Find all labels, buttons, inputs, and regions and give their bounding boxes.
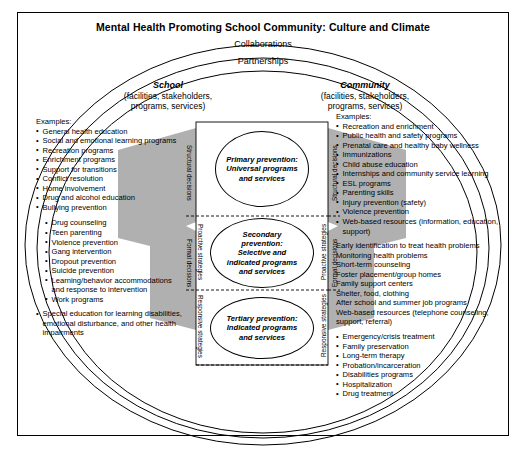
list-item: Probation/incarceration [336, 361, 511, 371]
label-formal-decisions-left: Formal decisions [186, 222, 193, 304]
list-item: Dropout prevention [45, 257, 186, 267]
school-name: School [108, 80, 228, 90]
list-item: Family support centers [336, 279, 511, 289]
community-primary-list: Recreation and enrichmentPublic health a… [336, 122, 511, 237]
label-responsive-strategies-left: Responsive strategies [197, 292, 204, 360]
list-item: Internships and community service learni… [336, 169, 511, 179]
list-item: Immunizations [336, 150, 511, 160]
label-responsive-strategies-right: Responsive strategies [320, 292, 327, 360]
prevention-tiers: Primary prevention: Universal programs a… [196, 122, 328, 365]
label-proactive-strategies-right: Proactive strategies [320, 222, 327, 282]
list-item: Recreation programs [36, 146, 186, 156]
school-primary-list: General health educationSocial and emoti… [36, 127, 186, 213]
tier-primary: Primary prevention: Universal programs a… [196, 122, 328, 216]
school-examples-column: Examples: General health educationSocial… [36, 117, 186, 338]
list-item: Drug counseling [45, 218, 186, 228]
page-title: Mental Health Promoting School Community… [0, 21, 526, 33]
list-item: Violence prevention [45, 238, 186, 248]
tertiary-prevention-ellipse: Tertiary prevention: Indicated programs … [210, 297, 314, 359]
list-item: Long-term therapy [336, 351, 511, 361]
list-item: Social and emotional learning programs [36, 136, 186, 146]
list-item: Web-based resources (telephone counselin… [336, 308, 511, 327]
list-item: Shelter, food, clothing [336, 289, 511, 299]
list-item: Child abuse education [336, 160, 511, 170]
collaborations-label: Collaborations [0, 39, 526, 49]
school-examples-label: Examples: [36, 117, 186, 127]
community-name: Community [300, 80, 430, 90]
list-item: Foster placement/group homes [336, 270, 511, 280]
list-item: Teen parenting [45, 228, 186, 238]
community-examples-label: Examples: [336, 112, 511, 122]
list-item: Conflict resolution [36, 174, 186, 184]
school-heading: School (facilities, stakeholders, progra… [108, 80, 228, 111]
list-item: Public health and safety programs [336, 131, 511, 141]
label-formal-decisions-right: Formal decisions [331, 222, 338, 304]
list-item: Hospitalization [336, 380, 511, 390]
partnerships-label: Partnerships [0, 56, 526, 66]
list-item: ESL programs [336, 179, 511, 189]
list-item: Early identification to treat health pro… [336, 241, 511, 251]
list-item: Suicide prevention [45, 266, 186, 276]
list-item: After school and summer job programs [336, 298, 511, 308]
list-item: Disabilities programs [336, 370, 511, 380]
community-subtitle: (facilities, stakeholders, programs, ser… [321, 91, 409, 111]
community-tertiary-list: Emergency/crisis treatmentFamily preserv… [336, 332, 511, 399]
school-secondary-list: Drug counselingTeen parentingViolence pr… [36, 218, 186, 304]
list-item: Special education for learning disabilit… [36, 309, 186, 338]
list-item: Work programs [45, 295, 186, 305]
list-item: General health education [36, 127, 186, 137]
list-item: Support for transitions [36, 165, 186, 175]
list-item: Parenting skills [336, 188, 511, 198]
list-item: Home involvement [36, 184, 186, 194]
tier-tertiary: Tertiary prevention: Indicated programs … [196, 290, 328, 365]
community-secondary-list: Early identification to treat health pro… [336, 241, 511, 327]
diagram-page: Mental Health Promoting School Community… [0, 0, 526, 452]
list-item: Web-based resources (information, educat… [336, 217, 511, 236]
label-proactive-strategies-left: Proactive strategies [197, 222, 204, 282]
community-heading: Community (facilities, stakeholders, pro… [300, 80, 430, 111]
label-structural-decisions-left: Structural decisions [186, 131, 193, 215]
list-item: Prenatal care and healthy baby wellness [336, 141, 511, 151]
list-item: Violence prevention [336, 207, 511, 217]
list-item: Monitoring health problems [336, 251, 511, 261]
list-item: Gang intervention [45, 247, 186, 257]
list-item: Short-term counseling [336, 260, 511, 270]
list-item: Family preservation [336, 342, 511, 352]
community-examples-column: Examples: Recreation and enrichmentPubli… [336, 112, 511, 399]
list-item: Drug treatment [336, 389, 511, 399]
list-item: Enrichment programs [36, 155, 186, 165]
list-item: Emergency/crisis treatment [336, 332, 511, 342]
primary-prevention-ellipse: Primary prevention: Universal programs a… [215, 131, 309, 207]
school-tertiary-list: Special education for learning disabilit… [36, 309, 186, 338]
tier-secondary: Secondary prevention: Selective and indi… [196, 216, 328, 290]
list-item: Bullying prevention [36, 203, 186, 213]
label-structural-decisions-right: Structural decisions [331, 131, 338, 215]
school-subtitle: (facilities, stakeholders, programs, ser… [124, 91, 212, 111]
list-item: Recreation and enrichment [336, 122, 511, 132]
list-item: Learning/behavior accommodations and res… [45, 276, 186, 295]
list-item: Injury prevention (safety) [336, 198, 511, 208]
list-item: Drug and alcohol education [36, 193, 186, 203]
secondary-prevention-ellipse: Secondary prevention: Selective and indi… [210, 218, 314, 288]
